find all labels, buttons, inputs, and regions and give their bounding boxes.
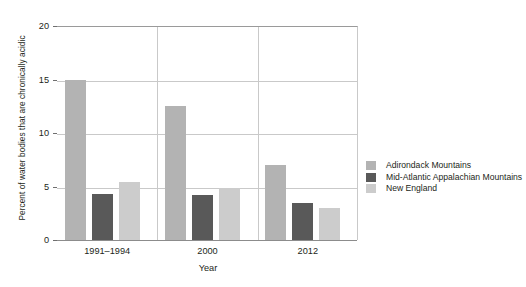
x-axis-title: Year — [0, 263, 416, 273]
legend-item: New England — [366, 183, 524, 194]
y-tick-label: 15 — [15, 75, 49, 85]
bar-2000-AdirondackMountains — [165, 106, 186, 240]
y-tick-label: 0 — [15, 235, 49, 245]
legend-item-label: Mid-Atlantic Appalachian Mountains — [386, 172, 522, 183]
bar-19911994-AdirondackMountains — [65, 80, 86, 241]
category-divider — [258, 27, 259, 240]
category-divider — [157, 27, 158, 240]
x-tick-label: 1991–1994 — [84, 246, 130, 256]
legend-item: Adirondack Mountains — [366, 160, 524, 171]
y-tick-label: 10 — [15, 128, 49, 138]
x-tick-label: 2012 — [298, 246, 318, 256]
legend-item-label: Adirondack Mountains — [386, 160, 471, 171]
x-tick-label: 2000 — [197, 246, 217, 256]
bar-2000-MidAtlanticAppalachianMountains — [192, 195, 213, 240]
chart-legend: Adirondack MountainsMid-Atlantic Appalac… — [366, 160, 524, 195]
bar-chart: Percent of water bodies that are chronic… — [0, 0, 526, 287]
y-tick-label: 5 — [15, 182, 49, 192]
bar-2000-NewEngland — [219, 188, 240, 240]
y-tick-label: 20 — [15, 21, 49, 31]
legend-swatch-icon — [366, 184, 376, 193]
gridline-10 — [57, 134, 357, 135]
bar-19911994-MidAtlanticAppalachianMountains — [92, 194, 113, 240]
gridline-0 — [57, 240, 357, 241]
bar-2012-MidAtlanticAppalachianMountains — [292, 203, 313, 240]
legend-item: Mid-Atlantic Appalachian Mountains — [366, 172, 524, 183]
plot-area — [57, 26, 358, 240]
gridline-15 — [57, 81, 357, 82]
legend-item-label: New England — [386, 183, 437, 194]
bar-19911994-NewEngland — [119, 182, 140, 240]
gridline-5 — [57, 188, 357, 189]
legend-swatch-icon — [366, 173, 376, 182]
bar-2012-NewEngland — [319, 208, 340, 240]
legend-swatch-icon — [366, 161, 376, 170]
bar-2012-AdirondackMountains — [265, 165, 286, 240]
